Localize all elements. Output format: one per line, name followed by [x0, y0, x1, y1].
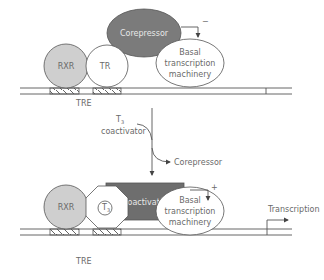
svg-text:Basal: Basal: [179, 48, 201, 57]
minus-sign: −: [202, 17, 209, 26]
corepressor-released-label: Corepressor: [174, 158, 223, 167]
tre-element-top: [50, 88, 121, 94]
diagram-canvas: TRE Corepressor RXR TR Basal transcripti…: [0, 0, 324, 280]
rxr-bottom: RXR: [44, 185, 88, 229]
coactivator-input-label: coactivator: [101, 127, 147, 136]
basal-machinery-top: Basal transcription machinery: [156, 39, 224, 87]
tr-label-top: TR: [99, 62, 111, 71]
bottom-panel: TRE Coactivator RXR T3 Basal transcripti…: [20, 183, 319, 266]
repression-arrow: −: [181, 17, 209, 37]
svg-text:transcription: transcription: [165, 207, 216, 216]
svg-text:machinery: machinery: [169, 70, 212, 79]
rxr-top: RXR: [44, 44, 88, 88]
corepressor-release-curve: [152, 148, 170, 162]
plus-sign: +: [211, 183, 218, 192]
corepressor-label-top: Corepressor: [120, 29, 169, 38]
svg-text:Basal: Basal: [179, 196, 201, 205]
rxr-label-bottom: RXR: [58, 203, 75, 212]
rxr-label-top: RXR: [58, 62, 75, 71]
tre-label-bottom: TRE: [75, 257, 92, 266]
tre-label-top: TRE: [75, 99, 92, 108]
basal-machinery-bottom: Basal transcription machinery: [156, 187, 224, 235]
svg-text:transcription: transcription: [165, 59, 216, 68]
t3-label: T3: [115, 115, 124, 125]
transcription-label: Transcription: [267, 205, 319, 214]
top-panel: TRE Corepressor RXR TR Basal transcripti…: [20, 9, 292, 108]
svg-text:machinery: machinery: [169, 218, 212, 227]
tr-top: TR: [86, 45, 128, 87]
transcription-start-arrow: Transcription: [267, 205, 319, 235]
tre-element-bottom: [50, 229, 121, 235]
tr-liganded: T3: [86, 186, 128, 228]
transition: T3 coactivator Corepressor: [101, 108, 223, 175]
